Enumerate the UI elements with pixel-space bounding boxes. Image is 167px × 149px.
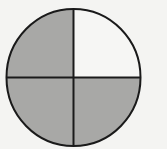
fraction-circle-diagram (0, 0, 167, 149)
quadrant-bottom-right (74, 78, 141, 147)
quadrant-top-right (74, 9, 141, 78)
fraction-circle-svg (0, 0, 167, 149)
quadrant-bottom-left (7, 78, 74, 147)
quadrant-top-left (7, 9, 74, 78)
